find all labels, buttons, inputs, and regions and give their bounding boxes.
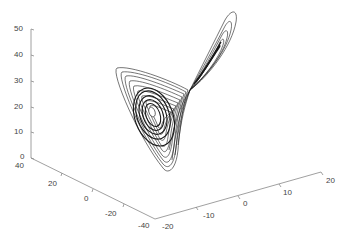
x-tick-label: 10 xyxy=(283,189,292,197)
z-tick-label: 50 xyxy=(14,25,23,33)
x-axis xyxy=(155,172,323,219)
y-axis xyxy=(31,158,155,219)
y-tick-label: -40 xyxy=(138,222,150,230)
x-tick-label: 20 xyxy=(326,177,335,185)
z-tick-label: 40 xyxy=(14,51,23,59)
z-tick-label: 20 xyxy=(14,103,23,111)
plot-area xyxy=(0,0,347,241)
x-tick-label: -10 xyxy=(203,212,215,220)
y-tick-label: -20 xyxy=(105,210,117,218)
z-tick-label: 0 xyxy=(20,153,24,161)
x-tick-label: 0 xyxy=(243,200,247,208)
x-tick-label: -20 xyxy=(162,223,174,231)
attractor-trajectory xyxy=(116,12,236,171)
y-tick-label: 40 xyxy=(15,162,24,170)
y-tick-label: 20 xyxy=(48,180,57,188)
z-tick-label: 10 xyxy=(14,128,23,136)
y-tick-label: 0 xyxy=(84,195,88,203)
z-tick-label: 30 xyxy=(14,77,23,85)
z-axis xyxy=(31,29,34,159)
